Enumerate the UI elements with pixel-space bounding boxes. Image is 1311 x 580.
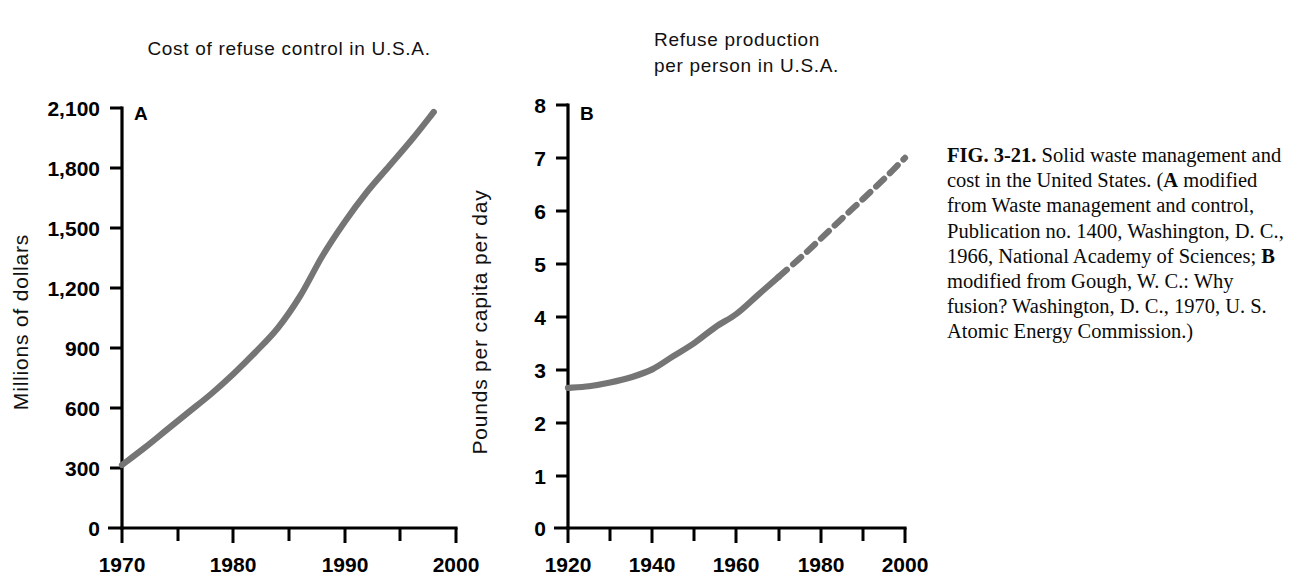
chart-a-y-tick-labels: 2,100 1,800 1,500 1,200 900 600 300 0 (47, 97, 100, 540)
chart-a-y-tick-label: 1,200 (47, 277, 100, 300)
chart-b-data-curve-observed (568, 277, 779, 388)
chart-panel-b: Refuse production per person in U.S.A. B… (468, 29, 928, 576)
figure-caption: FIG. 3-21. Solid waste management and co… (947, 143, 1299, 345)
chart-b-y-tick-label: 0 (534, 517, 546, 540)
chart-a-x-tick-labels: 1970 1980 1990 2000 (99, 553, 480, 576)
chart-b-x-tick-label: 1960 (713, 553, 760, 576)
chart-b-y-tick-label: 5 (534, 253, 546, 276)
chart-b-y-tick-label: 1 (534, 465, 546, 488)
chart-a-data-curve (122, 112, 434, 465)
chart-a-x-tick-label: 1990 (322, 553, 369, 576)
chart-a-y-tick-label: 1,800 (47, 157, 100, 180)
chart-b-x-tick-label: 1920 (545, 553, 592, 576)
chart-b-x-tick-label: 1980 (798, 553, 845, 576)
chart-b-y-axis-title: Pounds per capita per day (468, 189, 491, 454)
chart-b-y-tick-label: 6 (534, 200, 546, 223)
chart-a-x-tick-label: 1970 (99, 553, 146, 576)
chart-b-y-tick-label: 4 (534, 306, 546, 329)
figure-caption-b-text: modified from Gough, W. C.: Why fusion? … (947, 270, 1267, 342)
chart-a-y-axis-title: Millions of dollars (9, 234, 32, 410)
figure-caption-b-marker: B (1261, 245, 1275, 267)
chart-a-title: Cost of refuse control in U.S.A. (147, 38, 430, 59)
chart-a-y-tick-label: 600 (65, 397, 100, 420)
chart-b-data-curve-projected (779, 158, 905, 277)
chart-b-x-tick-labels: 1920 1940 1960 1980 2000 (545, 553, 929, 576)
chart-a-y-tick-label: 2,100 (47, 97, 100, 120)
chart-panel-a: Cost of refuse control in U.S.A. A Milli… (9, 38, 479, 576)
chart-a-y-tick-label: 0 (88, 517, 100, 540)
chart-a-panel-letter: A (134, 103, 148, 124)
chart-b-y-tick-label: 2 (534, 412, 546, 435)
chart-b-x-ticks (568, 528, 905, 543)
chart-b-y-ticks (554, 105, 568, 528)
figure-caption-label: FIG. 3-21. (947, 144, 1036, 166)
chart-a-x-tick-label: 1980 (210, 553, 257, 576)
chart-b-y-tick-label: 3 (534, 359, 546, 382)
chart-b-title-line2: per person in U.S.A. (654, 55, 839, 76)
chart-b-y-tick-label: 7 (534, 147, 546, 170)
chart-b-panel-letter: B (580, 103, 594, 124)
chart-b-y-tick-labels: 8 7 6 5 4 3 2 1 0 (534, 94, 546, 540)
chart-a-x-ticks (122, 528, 456, 543)
chart-b-x-tick-label: 1940 (629, 553, 676, 576)
figure-container: Cost of refuse control in U.S.A. A Milli… (0, 0, 1311, 580)
chart-b-x-tick-label: 2000 (882, 553, 929, 576)
chart-a-x-tick-label: 2000 (433, 553, 480, 576)
figure-caption-a-marker: A (1163, 169, 1178, 191)
chart-a-y-tick-label: 900 (65, 337, 100, 360)
chart-b-title-line1: Refuse production (654, 29, 820, 50)
chart-a-y-tick-label: 1,500 (47, 217, 100, 240)
chart-a-y-tick-label: 300 (65, 457, 100, 480)
chart-b-y-tick-label: 8 (534, 94, 546, 117)
